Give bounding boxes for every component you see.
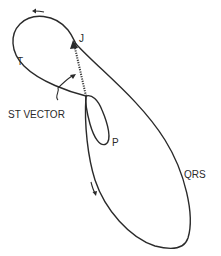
qrs-direction-arrow-icon: [91, 182, 95, 193]
qrs-loop: [76, 44, 190, 248]
vectorcardiogram-diagram: J T ST VECTOR P QRS: [0, 0, 221, 256]
p-loop: [86, 96, 109, 145]
t-loop-arrowhead-icon: [32, 9, 36, 14]
j-label: J: [79, 33, 84, 44]
qrs-arrowhead-icon: [93, 191, 98, 196]
st-vector-label: ST VECTOR: [8, 109, 65, 120]
st-vector-line: [75, 48, 86, 96]
qrs-label: QRS: [184, 169, 206, 180]
t-loop: [13, 16, 86, 96]
st-vector-leader: [57, 76, 72, 100]
p-label: P: [112, 137, 119, 148]
t-label: T: [17, 56, 23, 67]
